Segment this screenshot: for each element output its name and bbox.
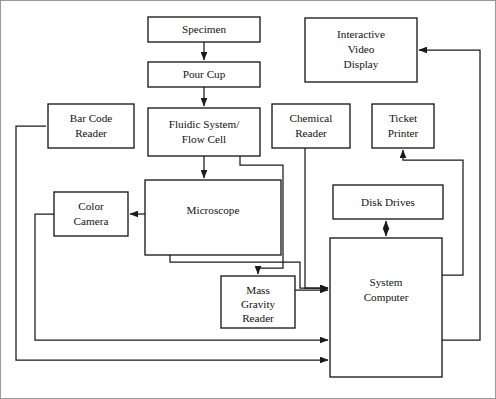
- node-ticket-printer[interactable]: Ticket Printer: [372, 104, 434, 148]
- node-system-computer-label-line2: Computer: [364, 291, 409, 303]
- node-ticket-printer-label-line1: Ticket: [389, 112, 418, 124]
- edge-chemical-reader-to-system-computer: [305, 148, 328, 288]
- node-microscope-label: Microscope: [187, 204, 240, 216]
- node-color-camera[interactable]: Color Camera: [54, 192, 128, 236]
- diagram-svg: Specimen Pour Cup Fluidic System/ Flow C…: [0, 0, 496, 399]
- node-interactive-video-display-label-line2: Video: [348, 43, 375, 55]
- node-chemical-reader-label-line2: Reader: [295, 127, 327, 139]
- node-system-computer[interactable]: System Computer: [330, 238, 442, 377]
- node-mass-gravity-reader-label-line3: Reader: [242, 312, 274, 324]
- node-fluidic-system-flow-cell-label-line2: Flow Cell: [182, 133, 226, 145]
- node-fluidic-system-flow-cell-label-line1: Fluidic System/: [169, 118, 240, 130]
- node-bar-code-reader[interactable]: Bar Code Reader: [48, 104, 134, 148]
- node-specimen-label: Specimen: [182, 23, 227, 35]
- node-microscope[interactable]: Microscope: [145, 180, 281, 255]
- node-mass-gravity-reader-label-line2: Gravity: [241, 298, 276, 310]
- node-disk-drives[interactable]: Disk Drives: [333, 185, 443, 219]
- node-bar-code-reader-label-line2: Reader: [75, 127, 107, 139]
- node-pour-cup-label: Pour Cup: [183, 68, 226, 80]
- node-color-camera-label-line1: Color: [78, 200, 104, 212]
- node-specimen[interactable]: Specimen: [148, 17, 260, 42]
- node-layer: Specimen Pour Cup Fluidic System/ Flow C…: [48, 17, 443, 377]
- diagram-canvas: Specimen Pour Cup Fluidic System/ Flow C…: [0, 0, 496, 399]
- node-color-camera-label-line2: Camera: [74, 215, 109, 227]
- node-interactive-video-display-label-line1: Interactive: [337, 28, 385, 40]
- node-fluidic-system-flow-cell[interactable]: Fluidic System/ Flow Cell: [148, 108, 260, 156]
- node-mass-gravity-reader-label-line1: Mass: [246, 284, 270, 296]
- node-system-computer-label-line1: System: [370, 276, 403, 288]
- node-ticket-printer-label-line2: Printer: [388, 127, 419, 139]
- node-mass-gravity-reader[interactable]: Mass Gravity Reader: [221, 276, 295, 328]
- node-interactive-video-display[interactable]: Interactive Video Display: [305, 18, 417, 82]
- node-chemical-reader-label-line1: Chemical: [290, 112, 333, 124]
- node-chemical-reader[interactable]: Chemical Reader: [272, 104, 350, 148]
- node-bar-code-reader-label-line1: Bar Code: [70, 112, 113, 124]
- node-disk-drives-label: Disk Drives: [361, 196, 415, 208]
- node-interactive-video-display-label-line3: Display: [344, 58, 379, 70]
- node-pour-cup[interactable]: Pour Cup: [148, 62, 260, 87]
